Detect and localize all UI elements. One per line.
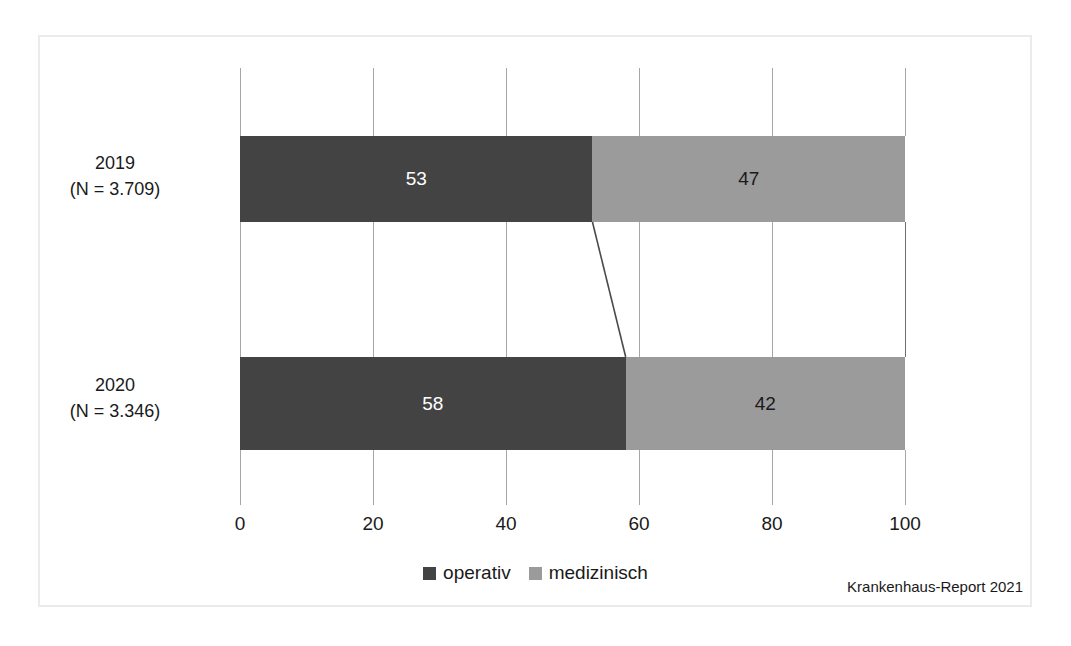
bar-segment-2020-medizinisch[interactable]: 42 [626, 357, 905, 450]
xtick-label-100: 100 [865, 513, 945, 535]
category-label-2020: 2020 (N = 3.346) [15, 372, 215, 424]
tick-mark-40-top [506, 68, 507, 136]
xtick-label-40: 40 [466, 513, 546, 535]
category-label-2019: 2019 (N = 3.709) [15, 150, 215, 202]
bar-value-label-2019-operativ: 53 [406, 168, 427, 190]
xtick-label-60: 60 [599, 513, 679, 535]
source-caption: Krankenhaus-Report 2021 [847, 578, 1023, 595]
bar-segment-2019-operativ[interactable]: 53 [240, 136, 592, 222]
tick-mark-60-top [639, 68, 640, 136]
bar-value-label-2019-medizinisch: 47 [738, 168, 759, 190]
bar-value-label-2020-medizinisch: 42 [755, 393, 776, 415]
tick-mark-100-top [905, 68, 906, 136]
xtick-label-80: 80 [732, 513, 812, 535]
tick-mark-60-bottom [639, 450, 640, 505]
tick-mark-40-mid [506, 222, 507, 357]
tick-mark-80-bottom [772, 450, 773, 505]
tick-mark-80-top [772, 68, 773, 136]
bar-segment-2020-operativ[interactable]: 58 [240, 357, 626, 450]
square-swatch-icon-medizinisch [529, 567, 542, 580]
category-year-2019: 2019 [15, 150, 215, 176]
xtick-label-0: 0 [200, 513, 280, 535]
legend-item-operativ[interactable]: operativ [423, 562, 511, 584]
square-swatch-icon-operativ [423, 567, 436, 580]
tick-mark-20-top [373, 68, 374, 136]
chart-plot-area: 0 20 40 60 80 100 2019 (N = 3.709) 2020 … [0, 0, 1071, 646]
legend-label-operativ: operativ [443, 562, 511, 584]
tick-mark-100-mid [905, 222, 906, 357]
stack-boundary-connector [0, 0, 1071, 646]
legend-item-medizinisch[interactable]: medizinisch [529, 562, 648, 584]
bar-value-label-2020-operativ: 58 [422, 393, 443, 415]
tick-mark-60-mid [639, 222, 640, 357]
xtick-label-20: 20 [333, 513, 413, 535]
tick-mark-40-bottom [506, 450, 507, 505]
category-n-2019: (N = 3.709) [15, 176, 215, 202]
tick-mark-20-bottom [373, 450, 374, 505]
category-n-2020: (N = 3.346) [15, 398, 215, 424]
legend-label-medizinisch: medizinisch [549, 562, 648, 584]
tick-mark-80-mid [772, 222, 773, 357]
tick-mark-20-mid [373, 222, 374, 357]
category-year-2020: 2020 [15, 372, 215, 398]
bar-segment-2019-medizinisch[interactable]: 47 [592, 136, 905, 222]
tick-mark-100-bottom [905, 450, 906, 505]
